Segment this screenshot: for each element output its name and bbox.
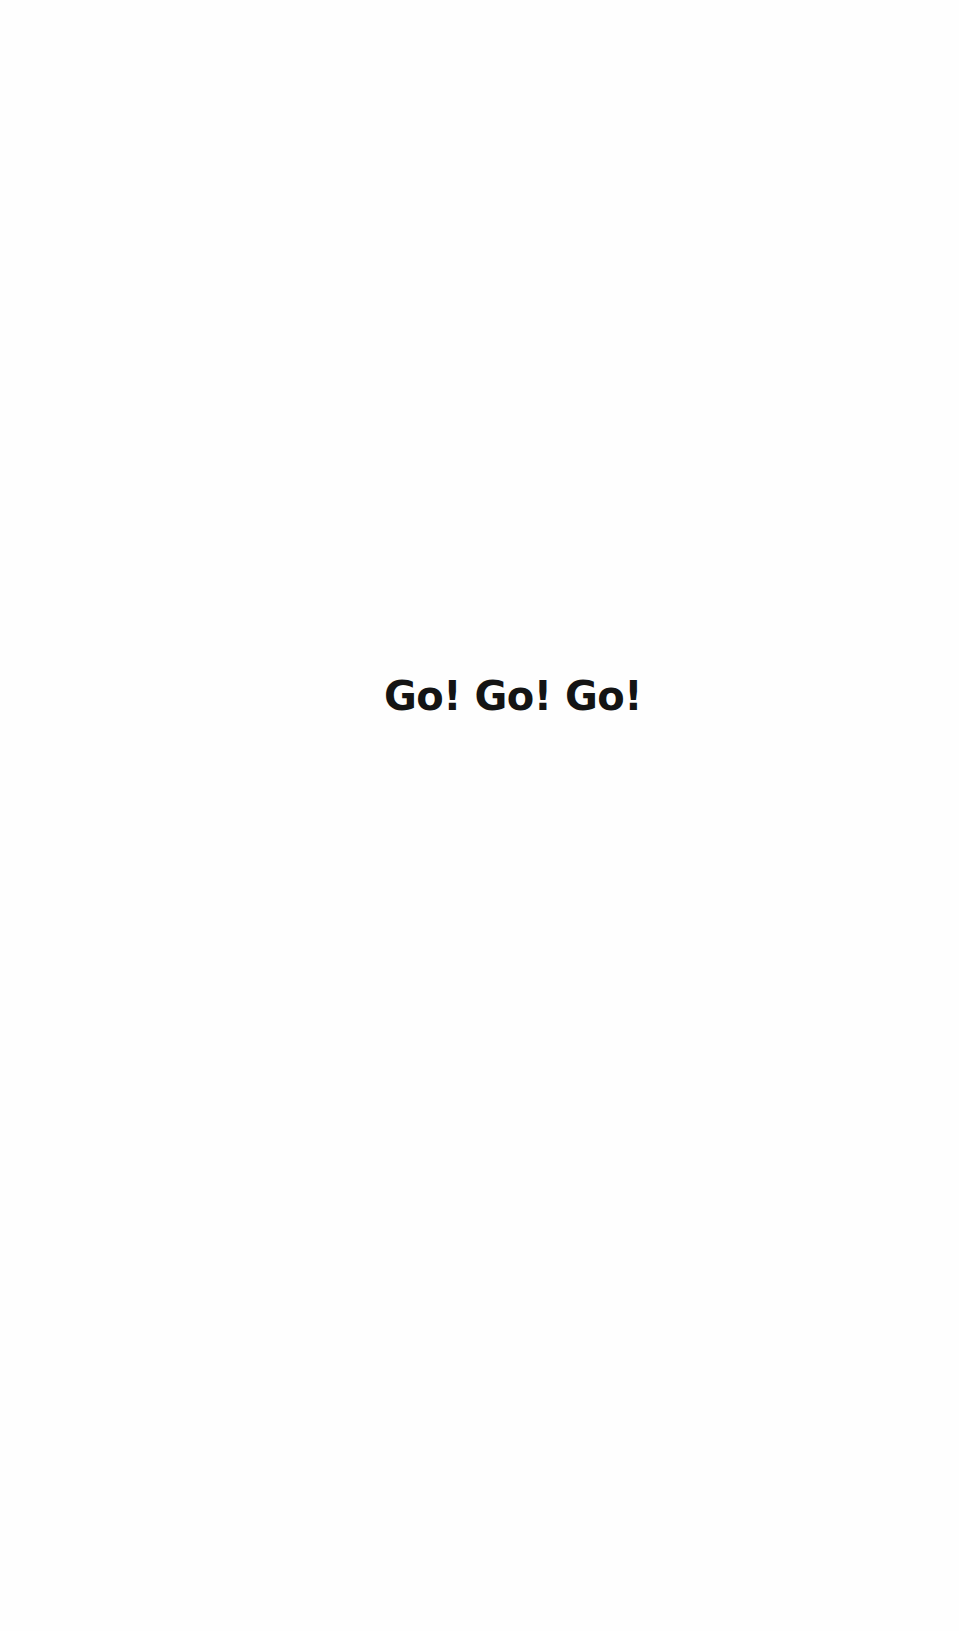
page-heading: Go! Go! Go! (381, 672, 645, 720)
book-page: Go! Go! Go! (0, 0, 959, 1631)
